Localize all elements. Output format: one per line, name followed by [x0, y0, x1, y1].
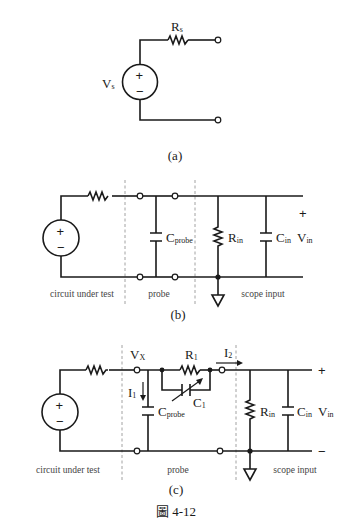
resistor-rs-icon [88, 192, 108, 200]
label-vin: Vin [318, 404, 334, 419]
label-r1: R1 [185, 347, 198, 362]
region-probe: probe [167, 465, 189, 475]
source-plus: + [136, 68, 144, 83]
terminal-icon [219, 367, 225, 373]
label-cprobe: Cprobe [166, 230, 193, 245]
panel-b: + − Cprobe Rin Cin Vin + circuit under t… [43, 180, 313, 322]
label-vx: VX [130, 347, 145, 362]
label-cin: Cin [297, 404, 312, 419]
terminal-icon [215, 117, 221, 123]
wire-b-top-left [61, 196, 88, 220]
resistor-rs-icon [168, 36, 188, 44]
terminal-icon [137, 274, 143, 280]
figure-caption: 圖 4-12 [156, 504, 196, 519]
label-vs: Vs [102, 76, 115, 91]
capacitor-cin-icon [282, 407, 294, 415]
resistor-rs-icon [86, 366, 108, 374]
source-minus: − [136, 84, 144, 99]
resistor-r1-icon [180, 366, 200, 374]
resistor-rin-icon [214, 196, 222, 277]
region-scope-input: scope input [241, 289, 285, 299]
capacitor-cprobe-icon [142, 407, 154, 415]
arrowhead-icon [196, 378, 203, 385]
arrowhead-icon [237, 360, 243, 366]
region-circuit-under-test: circuit under test [36, 465, 100, 475]
terminal-icon [217, 448, 223, 454]
label-c1: C1 [193, 395, 206, 410]
terminal-icon [172, 274, 178, 280]
vin-minus: − [318, 444, 326, 459]
vin-plus: + [318, 363, 326, 378]
arrowhead-icon [140, 395, 146, 401]
panel-a: + − Rs Vs (a) [102, 19, 221, 163]
region-circuit-under-test: circuit under test [50, 289, 114, 299]
source-plus: + [56, 398, 64, 413]
wire-a-bottom [140, 100, 215, 120]
capacitor-c1-icon [182, 384, 190, 396]
label-rs: Rs [171, 19, 183, 34]
label-cprobe: Cprobe [158, 404, 185, 419]
panel-label-a: (a) [168, 148, 182, 163]
source-plus: + [57, 224, 65, 239]
ground-icon [244, 469, 256, 480]
source-minus: − [56, 414, 64, 429]
terminal-icon [134, 367, 140, 373]
terminal-icon [215, 37, 221, 43]
resistor-rin-icon [246, 370, 254, 451]
label-rin: Rin [260, 404, 275, 419]
ground-icon [212, 295, 224, 306]
wire-a-top-left [140, 40, 168, 64]
label-rin: Rin [228, 230, 243, 245]
label-i1: I1 [128, 385, 136, 400]
capacitor-cin-icon [260, 233, 272, 241]
label-i2: I2 [224, 345, 232, 360]
terminal-icon [172, 193, 178, 199]
capacitor-cprobe-icon [150, 233, 162, 241]
wire-c-top-left [60, 370, 86, 394]
source-minus: − [57, 240, 65, 255]
panel-label-b: (b) [170, 307, 185, 322]
terminal-icon [137, 193, 143, 199]
label-vin: Vin [297, 230, 313, 245]
panel-c: + − Cprobe I1 R1 C1 VX I2 Rin [36, 345, 334, 497]
terminal-icon [134, 448, 140, 454]
region-probe: probe [148, 289, 170, 299]
wire-b-bot-a [61, 256, 137, 277]
label-cin: Cin [276, 230, 291, 245]
wire-c-bot-a [60, 430, 134, 451]
vin-plus: + [299, 206, 307, 221]
panel-label-c: (c) [169, 482, 183, 497]
region-scope-input: scope input [273, 465, 317, 475]
figure-4-12: + − Rs Vs (a) + − Cprobe [0, 0, 350, 526]
